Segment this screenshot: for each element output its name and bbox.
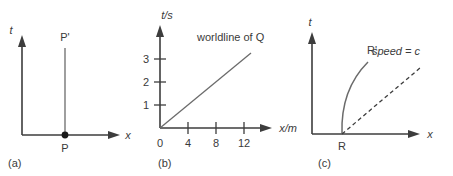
label-p: P xyxy=(61,142,68,154)
light-ray-line xyxy=(342,68,420,134)
worldline-q xyxy=(160,53,251,128)
y-tick-label-3: 3 xyxy=(143,53,149,65)
panel-tag-b: (b) xyxy=(158,157,171,169)
x-axis-arrow-b xyxy=(260,124,272,132)
event-dot-p xyxy=(62,132,69,139)
x-tick-label-12: 12 xyxy=(238,137,250,149)
panel-b-uniform-velocity-worldline: t/s x/m 0 4 8 12 1 2 3 worldline of Q (b… xyxy=(140,0,300,176)
x-tick-label-0: 0 xyxy=(157,137,163,149)
x-tick-label-8: 8 xyxy=(213,137,219,149)
t-axis-label-a: t xyxy=(9,24,13,36)
label-p-prime: P' xyxy=(60,31,69,43)
panel-tag-a: (a) xyxy=(8,157,21,169)
x-axis-label-b: x/m xyxy=(278,122,297,134)
t-axis-arrow-b xyxy=(156,25,164,37)
panel-a-stationary-worldline: t x P' P (a) xyxy=(0,0,140,176)
x-axis-arrow-c xyxy=(408,130,420,138)
light-ray-label: speed = c xyxy=(372,45,421,57)
x-axis-arrow-a xyxy=(108,131,120,139)
worldline-q-label: worldline of Q xyxy=(196,31,265,43)
label-r: R xyxy=(338,140,346,152)
spacetime-diagram-figure: t x P' P (a) t/s x/m xyxy=(0,0,453,176)
t-axis-label-b: t/s xyxy=(161,9,173,21)
t-axis-arrow-a xyxy=(18,35,26,47)
panel-a-canvas: t x P' P (a) xyxy=(0,0,140,176)
t-axis-label-c: t xyxy=(308,16,312,28)
panel-c-accelerating-worldline: t x R' R speed = c (c) xyxy=(300,0,453,176)
panel-tag-c: (c) xyxy=(318,157,331,169)
x-axis-label-c: x xyxy=(426,128,433,140)
x-tick-label-4: 4 xyxy=(185,137,191,149)
t-axis-arrow-c xyxy=(308,32,316,44)
x-axis-label-a: x xyxy=(124,129,131,141)
panel-c-canvas: t x R' R speed = c (c) xyxy=(300,0,453,176)
y-tick-label-1: 1 xyxy=(143,99,149,111)
y-tick-label-2: 2 xyxy=(143,76,149,88)
panel-b-canvas: t/s x/m 0 4 8 12 1 2 3 worldline of Q (b… xyxy=(140,0,300,176)
